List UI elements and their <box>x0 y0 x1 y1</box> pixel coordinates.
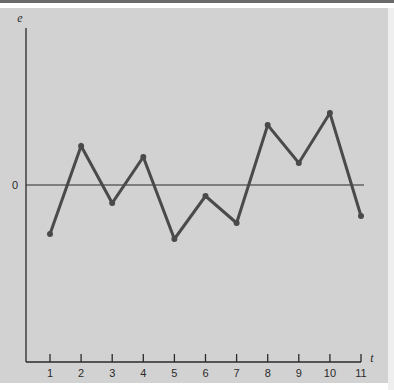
series-line <box>50 113 361 239</box>
x-tick-label: 8 <box>265 367 271 379</box>
data-point <box>109 200 115 206</box>
data-point <box>327 110 333 116</box>
data-point <box>78 143 84 149</box>
line-chart: e 0 t 1234567891011 <box>0 0 394 390</box>
axis-labels: e 0 t 1234567891011 <box>12 11 374 379</box>
data-point <box>140 154 146 160</box>
y-axis-label: e <box>17 11 23 25</box>
x-tick-label: 5 <box>171 367 177 379</box>
x-tick-label: 1 <box>47 367 53 379</box>
data-point <box>296 160 302 166</box>
x-tick-label: 11 <box>355 367 366 379</box>
x-tick-label: 7 <box>234 367 240 379</box>
data-point <box>265 122 271 128</box>
x-axis-label: t <box>370 351 374 365</box>
axes <box>26 28 364 362</box>
x-tick-label: 6 <box>202 367 208 379</box>
x-tick-label: 3 <box>109 367 115 379</box>
data-point <box>203 193 209 199</box>
data-series <box>47 110 364 242</box>
x-tick-label: 9 <box>296 367 302 379</box>
x-tick-label: 4 <box>140 367 146 379</box>
zero-label: 0 <box>12 179 18 191</box>
data-point <box>47 231 53 237</box>
x-tick-label: 2 <box>78 367 84 379</box>
data-point <box>358 213 364 219</box>
x-tick-label: 10 <box>324 367 336 379</box>
data-point <box>234 220 240 226</box>
data-point <box>171 236 177 242</box>
